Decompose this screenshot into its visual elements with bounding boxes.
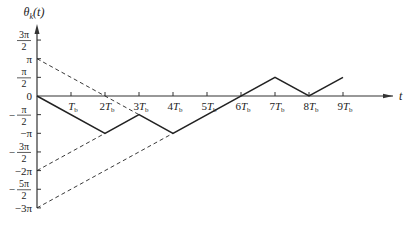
y-tick-label: −2π [15,165,33,177]
y-tick-numerator: π [21,104,26,115]
y-tick-denominator: 2 [22,41,27,52]
y-tick-denominator: 2 [22,153,27,164]
y-tick-denominator: 2 [22,190,27,201]
y-tick-sign: − [9,183,15,195]
axes [35,24,394,208]
y-tick-denominator: 2 [22,116,27,127]
y-tick-numerator: 3π [19,29,29,40]
labels-group: θk(t)tTb2Tb3Tb4Tb5Tb6Tb7Tb8Tb9Tb3π2ππ20π… [9,5,403,214]
phase-trajectory-chart: θk(t)tTb2Tb3Tb4Tb5Tb6Tb7Tb8Tb9Tb3π2ππ20π… [0,0,412,227]
phase-trajectory-line [37,77,343,133]
x-tick-label: 5Tb [201,100,217,114]
y-tick-sign: − [9,109,15,121]
y-tick-label: π [26,53,32,65]
x-tick-label: 9Tb [337,100,353,114]
x-tick-label: 8Tb [303,100,319,114]
y-tick-numerator: π [21,66,26,77]
dashed-reference-line [37,133,173,208]
y-axis-label: θk(t) [24,5,45,21]
y-tick-numerator: 5π [19,178,29,189]
x-tick-label: 4Tb [167,100,183,114]
y-tick-numerator: 3π [19,141,29,152]
y-tick-sign: − [9,146,15,158]
y-tick-label: 0 [27,90,33,102]
x-axis-label: t [399,89,403,103]
series-group [37,59,343,208]
y-tick-label: −3π [15,202,33,214]
x-tick-label: Tb [68,100,78,114]
dashed-reference-line [37,59,139,115]
x-axis-arrow [383,94,393,98]
x-tick-label: 6Tb [235,100,251,114]
dashed-reference-line [37,133,105,170]
x-tick-label: 7Tb [269,100,285,114]
x-tick-label: 3Tb [133,100,149,114]
y-axis-arrow [35,24,40,34]
x-tick-label: 2Tb [99,100,115,114]
y-tick-denominator: 2 [22,78,27,89]
y-tick-label: −π [20,127,32,139]
